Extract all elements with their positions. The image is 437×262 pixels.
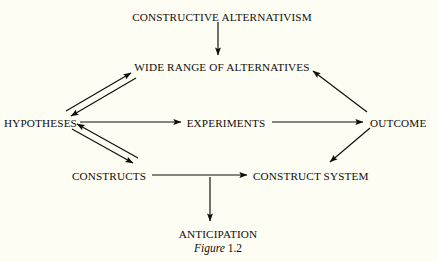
figure-caption-word: Figure xyxy=(194,242,225,254)
edge-constructs-to-hypotheses-up xyxy=(77,124,138,158)
node-construct-system: CONSTRUCT SYSTEM xyxy=(253,171,369,182)
arrow-layer xyxy=(0,0,437,262)
node-anticipation: ANTICIPATION xyxy=(179,229,257,240)
edge-wide-range-to-hypotheses-down xyxy=(71,78,136,116)
figure-diagram: CONSTRUCTIVE ALTERNATIVISM WIDE RANGE OF… xyxy=(0,0,437,262)
edge-outcome-to-construct-system xyxy=(330,128,370,162)
node-constructive-alternativism: CONSTRUCTIVE ALTERNATIVISM xyxy=(132,12,312,23)
node-hypotheses: HYPOTHESES xyxy=(4,118,77,129)
node-outcome: OUTCOME xyxy=(370,118,426,129)
figure-caption-number: 1.2 xyxy=(225,242,242,254)
edge-hypotheses-to-wide-range-up xyxy=(66,73,131,111)
node-wide-range-of-alternatives: WIDE RANGE OF ALTERNATIVES xyxy=(134,62,309,73)
edge-outcome-to-wide-range xyxy=(313,71,367,112)
edge-hypotheses-to-constructs-down xyxy=(72,129,133,163)
node-experiments: EXPERIMENTS xyxy=(187,118,266,129)
node-constructs: CONSTRUCTS xyxy=(72,171,146,182)
figure-caption: Figure 1.2 xyxy=(194,243,242,255)
